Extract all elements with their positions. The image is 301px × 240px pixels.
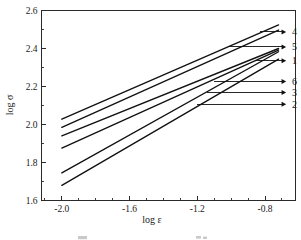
series-label-3: 3 xyxy=(292,87,297,98)
x-axis-title: log ε xyxy=(142,214,161,225)
x-axis-tick-label: -1.2 xyxy=(190,204,205,214)
series-label-6: 6 xyxy=(292,76,297,87)
x-axis-tick-label: -1.6 xyxy=(122,204,137,214)
y-axis-tick-label: 2.4 xyxy=(26,44,38,54)
x-axis-tick-label: -0.8 xyxy=(257,204,272,214)
series-label-2: 2 xyxy=(292,99,297,110)
log-sigma-vs-log-epsilon-chart: -2.0-1.6-1.2-0.8 1.61.82.02.22.42.6 4516… xyxy=(0,0,301,240)
y-axis-title: log σ xyxy=(4,94,15,115)
figure-container: -2.0-1.6-1.2-0.8 1.61.82.02.22.42.6 4516… xyxy=(0,0,301,240)
y-axis-tick-label: 2.0 xyxy=(26,120,38,130)
y-axis-tick-label: 2.2 xyxy=(26,82,38,92)
chart-background xyxy=(0,0,301,240)
series-label-1: 1 xyxy=(292,55,297,66)
y-axis-tick-label: 1.6 xyxy=(26,196,38,206)
y-axis-tick-label: 2.6 xyxy=(26,6,38,16)
x-axis-tick-label: -2.0 xyxy=(54,204,69,214)
series-label-5: 5 xyxy=(292,41,297,52)
y-axis-tick-label: 1.8 xyxy=(26,158,38,168)
series-label-4: 4 xyxy=(292,26,297,37)
